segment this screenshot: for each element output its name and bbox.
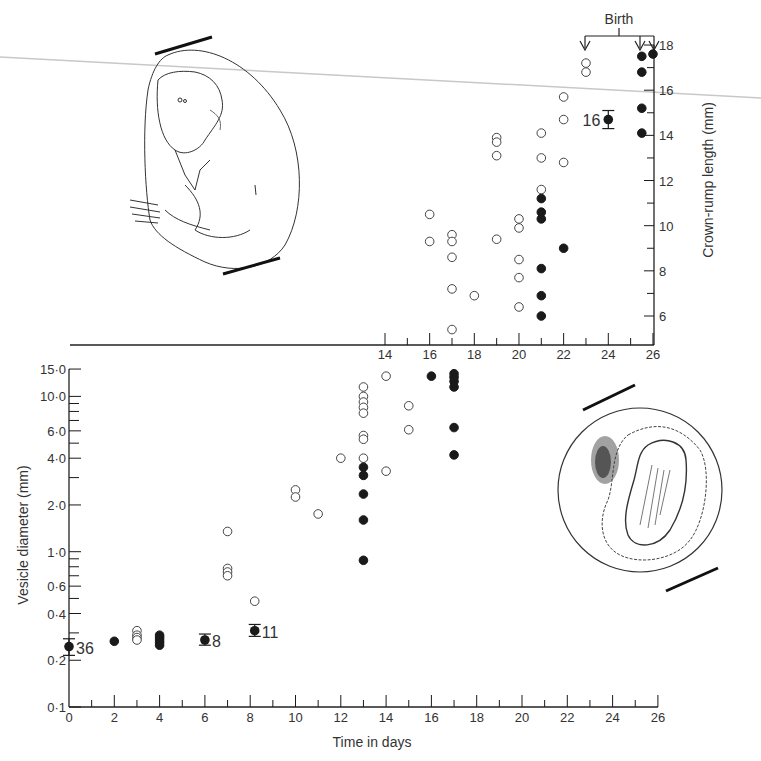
open-data-point xyxy=(359,383,368,392)
lower-data-points: 36811 xyxy=(63,369,458,656)
open-data-point xyxy=(492,235,501,244)
open-data-point xyxy=(425,237,434,246)
lower-x-tick-label: 16 xyxy=(424,710,438,725)
lower-x-tick-label: 6 xyxy=(201,710,208,725)
upper-plot: 14161820222426 681012141618 Crown-rump l… xyxy=(70,11,716,362)
open-data-point xyxy=(250,597,259,606)
open-data-point xyxy=(470,291,479,300)
filled-data-point xyxy=(537,215,546,224)
open-data-point xyxy=(448,325,457,334)
filled-data-point xyxy=(450,383,459,392)
lower-x-axis-label: Time in days xyxy=(333,734,412,750)
open-data-point xyxy=(582,59,591,68)
open-data-point xyxy=(223,527,232,536)
lower-y-ticks: 0·10·20·40·61·02·04·06·010·015·0 xyxy=(40,362,81,715)
fetus-marker-bottom xyxy=(223,258,280,274)
open-data-point xyxy=(448,285,457,294)
vesicle-illustration-icon xyxy=(558,408,722,572)
lower-x-tick-label: 10 xyxy=(288,710,302,725)
lower-x-tick-label: 22 xyxy=(560,710,574,725)
sample-size-label: 8 xyxy=(212,633,221,650)
open-data-point xyxy=(492,138,501,147)
lower-y-tick-label: 0·1 xyxy=(47,700,66,715)
open-data-point xyxy=(314,510,323,519)
open-data-point xyxy=(537,129,546,138)
open-data-point xyxy=(404,401,413,410)
vesicle-marker-bottom xyxy=(666,568,718,591)
filled-data-point xyxy=(450,451,459,460)
lower-y-tick-label: 1·0 xyxy=(47,545,66,560)
open-data-point xyxy=(515,255,524,264)
lower-y-tick-label: 15·0 xyxy=(40,362,66,377)
lower-y-tick-label: 0·6 xyxy=(47,579,66,594)
filled-data-point xyxy=(155,641,164,650)
open-data-point xyxy=(223,571,232,580)
open-data-point xyxy=(515,215,524,224)
lower-x-ticks: 02468101214161820222426 xyxy=(65,695,665,725)
open-data-point xyxy=(133,636,142,645)
upper-x-tick-label: 22 xyxy=(556,347,570,362)
open-data-point xyxy=(359,409,368,418)
upper-y-tick-label: 12 xyxy=(659,174,673,189)
birth-annotation xyxy=(580,28,659,50)
sample-size-label: 36 xyxy=(76,640,94,657)
filled-data-point xyxy=(427,372,436,381)
open-data-point xyxy=(582,68,591,77)
open-data-point xyxy=(359,435,368,444)
open-data-point xyxy=(537,154,546,163)
filled-data-point xyxy=(637,104,646,113)
upper-y-tick-label: 16 xyxy=(659,83,673,98)
filled-data-point xyxy=(359,463,368,472)
sample-size-label: 16 xyxy=(583,112,601,129)
open-data-point xyxy=(515,273,524,282)
lower-y-tick-label: 2·0 xyxy=(47,498,66,513)
upper-y-tick-label: 8 xyxy=(659,264,666,279)
upper-x-tick-label: 18 xyxy=(467,347,481,362)
upper-x-ticks: 14161820222426 xyxy=(378,333,660,362)
filled-data-point xyxy=(637,68,646,77)
lower-x-tick-label: 0 xyxy=(65,710,72,725)
mean-data-point xyxy=(604,115,614,125)
mean-data-point xyxy=(250,626,260,636)
filled-data-point xyxy=(359,516,368,525)
open-data-point xyxy=(515,303,524,312)
upper-y-tick-label: 14 xyxy=(659,128,673,143)
open-data-point xyxy=(382,372,391,381)
lower-x-tick-label: 8 xyxy=(247,710,254,725)
lower-y-axis-label: Vesicle diameter (mm) xyxy=(15,465,31,604)
filled-data-point xyxy=(637,129,646,138)
open-data-point xyxy=(537,185,546,194)
lower-y-tick-label: 4·0 xyxy=(47,451,66,466)
upper-x-tick-label: 24 xyxy=(601,347,615,362)
lower-y-tick-label: 0·4 xyxy=(47,607,66,622)
open-data-point xyxy=(337,454,346,463)
lower-x-tick-label: 14 xyxy=(379,710,393,725)
filled-data-point xyxy=(359,471,368,480)
lower-y-tick-label: 6·0 xyxy=(47,424,66,439)
filled-data-point xyxy=(359,556,368,565)
upper-y-tick-label: 18 xyxy=(659,38,673,53)
filled-data-point xyxy=(637,52,646,61)
open-data-point xyxy=(404,425,413,434)
lower-x-tick-label: 26 xyxy=(651,710,665,725)
filled-data-point xyxy=(537,291,546,300)
filled-data-point xyxy=(450,423,459,432)
mean-data-point xyxy=(64,642,74,652)
lower-x-tick-label: 24 xyxy=(605,710,619,725)
filled-data-point xyxy=(359,490,368,499)
filled-data-point xyxy=(537,312,546,321)
open-data-point xyxy=(559,115,568,124)
lower-x-tick-label: 4 xyxy=(156,710,163,725)
open-data-point xyxy=(448,237,457,246)
upper-x-tick-label: 20 xyxy=(512,347,526,362)
figure: 14161820222426 681012141618 Crown-rump l… xyxy=(0,0,761,761)
fetus-illustration-icon xyxy=(130,50,299,268)
sample-size-label: 11 xyxy=(262,624,279,641)
open-data-point xyxy=(291,493,300,502)
lower-x-tick-label: 20 xyxy=(515,710,529,725)
open-data-point xyxy=(425,210,434,219)
lower-plot: 02468101214161820222426 0·10·20·40·61·02… xyxy=(15,362,665,750)
upper-y-tick-label: 10 xyxy=(659,219,673,234)
vesicle-marker-top xyxy=(583,385,635,410)
birth-label: Birth xyxy=(605,11,634,27)
